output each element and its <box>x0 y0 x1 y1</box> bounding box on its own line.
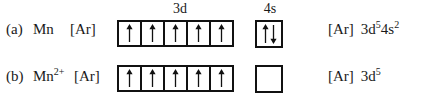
spin-up-arrow-icon <box>195 24 202 43</box>
electron-configuration-text-a: [Ar]3d54s2 <box>328 22 399 37</box>
orbital-box-group-3d-a <box>117 20 234 47</box>
config-orbital-3d-b: 3d <box>361 68 376 84</box>
orbital-box-empty <box>255 65 283 93</box>
spin-up-arrow-icon <box>149 69 156 88</box>
orbital-box <box>186 65 211 92</box>
orbital-diagram-figure: (a) Mn [Ar] 3d <box>0 0 421 105</box>
species-label-a: Mn <box>33 22 54 37</box>
orbital-box <box>117 20 142 47</box>
config-count-3d-b: 5 <box>376 66 381 77</box>
orbital-label-3d: 3d <box>150 2 210 16</box>
orbital-box <box>163 20 188 47</box>
row-marker-a: (a) <box>6 22 23 37</box>
orbital-box <box>140 20 165 47</box>
spin-up-arrow-icon <box>218 24 225 43</box>
orbital-label-4s: 4s <box>248 2 292 16</box>
species-charge-b: 2+ <box>54 66 65 77</box>
electron-configuration-row-b: (b) Mn2+ [Ar] <box>0 55 421 97</box>
spin-up-arrow-icon <box>172 69 179 88</box>
species-symbol-a: Mn <box>33 21 54 37</box>
orbital-box <box>209 20 234 47</box>
spin-up-arrow-icon <box>262 24 269 44</box>
config-core-a: [Ar] <box>328 21 354 37</box>
noble-gas-core-b: [Ar] <box>74 69 100 84</box>
species-symbol-b: Mn <box>33 68 54 84</box>
orbital-box <box>117 65 142 92</box>
orbital-box-group-4s-b <box>255 65 283 93</box>
orbital-box <box>140 65 165 92</box>
spin-up-arrow-icon <box>218 69 225 88</box>
spin-up-arrow-icon <box>126 24 133 43</box>
config-orbital-4s-a: 4s <box>381 21 394 37</box>
config-orbital-3d-a: 3d <box>361 21 376 37</box>
spin-up-arrow-icon <box>149 24 156 43</box>
spin-up-arrow-icon <box>172 24 179 43</box>
electron-configuration-row-a: (a) Mn [Ar] 3d <box>0 8 421 50</box>
orbital-box <box>186 20 211 47</box>
config-count-4s-a: 2 <box>394 19 399 30</box>
orbital-box <box>209 65 234 92</box>
spin-up-arrow-icon <box>126 69 133 88</box>
orbital-box <box>163 65 188 92</box>
config-core-b: [Ar] <box>328 68 354 84</box>
orbital-box-group-3d-b <box>117 65 234 92</box>
species-label-b: Mn2+ <box>33 69 64 84</box>
noble-gas-core-a: [Ar] <box>70 22 96 37</box>
spin-down-arrow-icon <box>270 24 277 44</box>
spin-up-arrow-icon <box>195 69 202 88</box>
orbital-box-group-4s-a <box>255 20 283 48</box>
electron-configuration-text-b: [Ar]3d5 <box>328 69 381 84</box>
orbital-box <box>255 20 283 48</box>
row-marker-b: (b) <box>6 69 24 84</box>
